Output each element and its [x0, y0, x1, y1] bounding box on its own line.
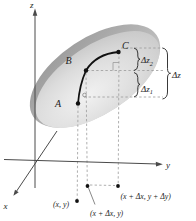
x-axis-arrowhead-icon [13, 190, 18, 196]
delta-z-total-brace [163, 48, 171, 99]
z-axis-label: z [29, 0, 34, 10]
y-axis-label: y [165, 160, 170, 170]
plane-point-xdx-y-dot [86, 184, 90, 188]
plane-point-xdx-ydy-label: (x + Δx, y + Δy) [121, 192, 172, 201]
point-b-dot [84, 68, 88, 72]
plane-point-xdx-y-label: (x + Δx, y) [90, 209, 124, 218]
delta-z-total-label: Δz [171, 70, 181, 80]
point-c-label: C [122, 40, 129, 51]
figure-canvas: z y x A B C Δz2 Δz1 Δz (x, y) (x + Δx, y… [0, 0, 196, 221]
x-axis-label: x [3, 201, 8, 211]
y-axis-line [4, 160, 158, 165]
y-axis-arrowhead-icon [156, 162, 163, 167]
plane-point-xy-dot [75, 199, 79, 203]
point-a-label: A [54, 98, 62, 109]
plane-point-xdx-ydy-dot [116, 184, 120, 188]
point-b-label: B [66, 55, 72, 66]
x-axis-line [16, 131, 57, 192]
point-a-dot [76, 101, 80, 105]
plane-point-xy-label: (x, y) [53, 200, 69, 209]
label-leader-line [89, 188, 96, 205]
plane-segment-dy [90, 185, 115, 186]
delta-z1-label: Δz1 [140, 84, 153, 96]
point-c-dot [116, 50, 120, 54]
